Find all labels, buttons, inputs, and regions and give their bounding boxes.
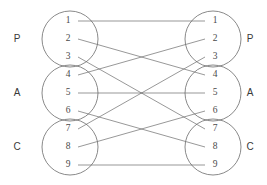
- left-node-5: 5: [66, 87, 71, 97]
- left-node-4: 4: [66, 69, 71, 79]
- left-node-3: 3: [66, 51, 71, 61]
- left-node-6: 6: [66, 105, 71, 115]
- left-node-7: 7: [66, 123, 71, 133]
- left-node-1: 1: [66, 15, 71, 25]
- right-node-5: 5: [213, 87, 218, 97]
- right-node-6: 6: [213, 105, 218, 115]
- bipartite-graph-svg: 123456789 123456789 PACPAC: [0, 0, 267, 185]
- right-node-3: 3: [213, 51, 218, 61]
- left-group-label-p: P: [14, 33, 21, 44]
- right-node-1: 1: [213, 15, 218, 25]
- left-node-2: 2: [66, 33, 71, 43]
- left-node-9: 9: [66, 159, 71, 169]
- left-node-labels: 123456789: [66, 15, 71, 169]
- right-node-labels: 123456789: [213, 15, 218, 169]
- right-node-2: 2: [213, 33, 218, 43]
- right-node-4: 4: [213, 69, 218, 79]
- diagram-canvas: 123456789 123456789 PACPAC: [0, 0, 267, 185]
- left-node-8: 8: [66, 141, 71, 151]
- left-group-label-a: A: [14, 87, 21, 98]
- right-node-9: 9: [213, 159, 218, 169]
- side-group-labels: PACPAC: [13, 33, 253, 152]
- right-group-label-a: A: [247, 87, 254, 98]
- right-group-label-p: P: [247, 33, 254, 44]
- right-node-7: 7: [213, 123, 218, 133]
- right-group-label-c: C: [246, 141, 253, 152]
- left-group-label-c: C: [13, 141, 20, 152]
- edges-layer: [78, 21, 205, 165]
- right-node-8: 8: [213, 141, 218, 151]
